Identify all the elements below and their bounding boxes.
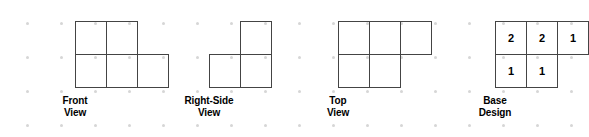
top-view-cell-r0c1 (369, 21, 401, 55)
base-design-caption-line1: Base (479, 95, 512, 107)
front-view-caption: Front View (62, 95, 87, 119)
figure-front-view: Front View (0, 0, 150, 137)
base-design-cell-r1c1: 1 (526, 54, 558, 88)
front-view-caption-line2: View (62, 107, 87, 119)
top-view-caption-line1: Top (327, 95, 349, 107)
figure-top-view: Top View (268, 0, 408, 137)
right-side-view-caption-line2: View (185, 107, 234, 119)
front-view-cell-r0c0 (75, 21, 107, 55)
right-side-view-caption: Right-Side View (185, 95, 234, 119)
figure-right-side-view: Right-Side View (150, 0, 268, 137)
base-design-cell-r1c0: 1 (495, 54, 527, 88)
front-view-caption-line1: Front (62, 95, 87, 107)
top-view-caption: Top View (327, 95, 349, 119)
front-view-cell-r1c1 (106, 54, 138, 88)
top-view-cell-r1c1 (369, 54, 401, 88)
top-view-cell-r0c0 (338, 21, 370, 55)
figure-base-design: 2 2 1 1 1 Base Design (408, 0, 582, 137)
front-view-cell-r0c1 (106, 21, 138, 55)
top-view-caption-line2: View (327, 107, 349, 119)
top-view-cell-r1c0 (338, 54, 370, 88)
front-view-cell-r1c0 (75, 54, 107, 88)
base-design-cell-r0c1: 2 (526, 21, 558, 55)
right-side-view-cell-r1c0 (209, 54, 241, 88)
base-design-caption-line2: Design (479, 107, 512, 119)
base-design-cell-r0c2: 1 (557, 21, 589, 55)
base-design-cell-r0c0: 2 (495, 21, 527, 55)
right-side-view-caption-line1: Right-Side (185, 95, 234, 107)
base-design-caption: Base Design (479, 95, 512, 119)
